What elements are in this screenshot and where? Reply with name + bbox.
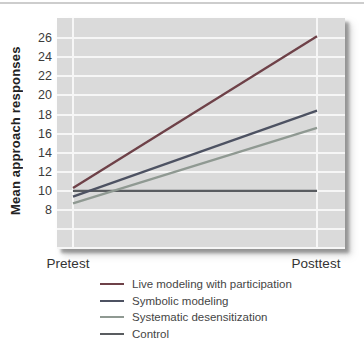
y-tick-label: 12 [24, 164, 52, 180]
x-tick-posttest: Posttest [287, 256, 345, 272]
legend-item: Symbolic modeling [100, 295, 292, 307]
legend-label: Live modeling with participation [132, 278, 292, 290]
top-rule [0, 2, 364, 4]
y-tick-label: 10 [24, 183, 52, 199]
legend-swatch [100, 300, 124, 302]
y-tick-label: 24 [24, 49, 52, 65]
legend-swatch [100, 316, 124, 318]
figure-mean-approach-responses: Mean approach responses 2624222018161412… [0, 0, 364, 357]
legend: Live modeling with participationSymbolic… [100, 278, 292, 344]
legend-label: Control [132, 328, 169, 340]
y-tick-label: 20 [24, 87, 52, 103]
legend-item: Systematic desensitization [100, 311, 292, 323]
legend-label: Symbolic modeling [132, 295, 229, 307]
y-tick-label: 16 [24, 126, 52, 142]
y-tick-label: 8 [24, 202, 52, 218]
legend-item: Live modeling with participation [100, 278, 292, 290]
legend-swatch [100, 333, 124, 335]
line-chart [57, 18, 345, 249]
plot-area [57, 18, 345, 249]
legend-item: Control [100, 328, 292, 340]
x-tick-pretest: Pretest [40, 256, 96, 272]
y-tick-label: 26 [24, 30, 52, 46]
legend-label: Systematic desensitization [132, 311, 268, 323]
y-tick-label: 14 [24, 145, 52, 161]
legend-swatch [100, 283, 124, 285]
y-tick-label: 18 [24, 107, 52, 123]
y-tick-label: 22 [24, 68, 52, 84]
